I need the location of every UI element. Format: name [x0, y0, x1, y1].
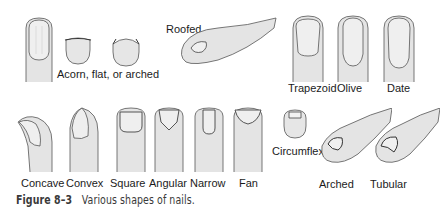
figure-caption-text: Various shapes of nails.: [82, 193, 195, 207]
arched-nail-top-illustration: [110, 36, 142, 68]
label-square: Square: [110, 177, 145, 189]
label-date: Date: [387, 82, 410, 94]
convex-finger-illustration: [68, 106, 100, 172]
label-convex: Convex: [66, 177, 103, 189]
label-arched: Arched: [319, 178, 354, 190]
figure-number: Figure 8–3: [16, 193, 72, 207]
figure-caption: Figure 8–3 Various shapes of nails.: [16, 193, 195, 207]
fan-finger-illustration: [232, 106, 264, 172]
label-concave: Concave: [21, 177, 64, 189]
narrow-finger-illustration: [193, 106, 225, 172]
label-angular: Angular: [149, 177, 187, 189]
nail-shapes-figure: Acorn, flat, or arched Roofed Trapezoid …: [0, 0, 447, 213]
label-fan: Fan: [239, 177, 258, 189]
olive-finger-illustration: [336, 14, 370, 82]
acorn-nail-illustration: [63, 36, 93, 66]
circumflex-nail-illustration: [280, 108, 310, 140]
label-tubular: Tubular: [370, 178, 407, 190]
label-narrow: Narrow: [190, 177, 225, 189]
tubular-finger-illustration: [374, 108, 440, 164]
trapezoid-finger-illustration: [290, 14, 326, 82]
label-acorn: Acorn, flat, or arched: [57, 68, 159, 80]
date-finger-illustration: [382, 14, 416, 82]
concave-finger-illustration: [16, 112, 56, 172]
label-olive: Olive: [337, 82, 362, 94]
roofed-finger-illustration: [178, 16, 278, 66]
square-finger-illustration: [115, 106, 147, 172]
angular-finger-illustration: [153, 106, 185, 172]
label-circumflex: Circumflex: [272, 145, 324, 157]
label-trapezoid: Trapezoid: [288, 82, 337, 94]
acorn-finger-illustration: [24, 16, 54, 82]
